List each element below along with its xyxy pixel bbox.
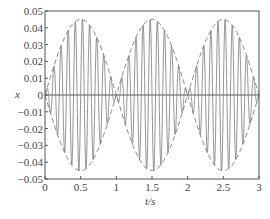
- x-tick-label: 1.5: [145, 181, 159, 193]
- y-tick-label: −0.03: [18, 139, 44, 151]
- x-tick-label: 3: [256, 181, 262, 193]
- x-tick-label: 0.5: [74, 181, 88, 193]
- y-tick-label: 0.03: [24, 39, 44, 51]
- y-tick-label: 0.01: [24, 72, 43, 84]
- y-axis-label: x: [14, 88, 20, 100]
- y-tick-label: −0.05: [18, 173, 44, 185]
- x-axis-label: t/s: [145, 195, 155, 207]
- y-axis-ticks: 0.050.040.030.020.010−0.01−0.02−0.03−0.0…: [18, 5, 48, 185]
- plot-area: [45, 19, 259, 170]
- y-tick-label: −0.02: [18, 123, 43, 135]
- y-tick-label: −0.01: [18, 106, 43, 118]
- y-tick-label: 0: [38, 89, 44, 101]
- signal-line: [45, 20, 259, 171]
- x-tick-label: 0: [42, 181, 48, 193]
- x-tick-label: 1: [114, 181, 120, 193]
- x-tick-label: 2.5: [216, 181, 230, 193]
- y-tick-label: 0.02: [24, 55, 43, 67]
- beat-vibration-chart: 0.050.040.030.020.010−0.01−0.02−0.03−0.0…: [0, 0, 270, 219]
- y-tick-label: −0.04: [18, 156, 44, 168]
- x-tick-label: 2: [185, 181, 191, 193]
- y-tick-label: 0.05: [24, 5, 44, 17]
- y-tick-label: 0.04: [24, 22, 44, 34]
